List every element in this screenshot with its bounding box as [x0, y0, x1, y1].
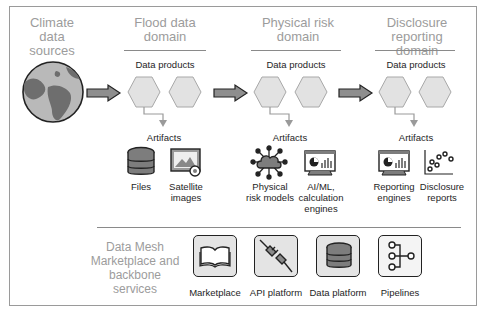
- service-tile-data-platform[interactable]: [316, 235, 360, 277]
- database-icon: [127, 147, 155, 177]
- data-products-label: Data products: [120, 59, 210, 70]
- backbone-title: Data Mesh Marketplace and backbone servi…: [88, 240, 182, 296]
- database-icon: [326, 242, 352, 270]
- divider: [251, 50, 341, 51]
- scatter-plot-icon: [424, 150, 454, 176]
- data-product-hexagon-icon[interactable]: [253, 76, 287, 108]
- connector-arrow-icon: [143, 107, 167, 129]
- service-tile-marketplace[interactable]: [193, 235, 237, 277]
- cloud-network-icon: [252, 146, 286, 178]
- artifact-label: AI/ML, calculation engines: [298, 181, 344, 214]
- artifacts-label: Artifacts: [382, 132, 450, 143]
- dashboard-monitor-icon: [304, 150, 336, 176]
- service-label: Pipelines: [372, 287, 428, 298]
- flow-arrow-icon: [86, 84, 122, 102]
- domain-title-physical-risk: Physical risk domain: [250, 16, 346, 44]
- service-tile-pipelines[interactable]: [378, 235, 422, 277]
- divider: [375, 50, 455, 51]
- dashboard-monitor-icon: [378, 150, 410, 176]
- service-label: Data platform: [306, 287, 370, 298]
- data-product-hexagon-icon[interactable]: [127, 76, 161, 108]
- connector-arrow-icon: [269, 107, 293, 129]
- open-book-icon: [199, 244, 231, 268]
- service-tile-api-platform[interactable]: [254, 235, 298, 277]
- service-label: API platform: [246, 287, 306, 298]
- satellite-image-icon: [170, 148, 202, 178]
- data-products-label: Data products: [368, 59, 464, 70]
- domain-title-flood: Flood data domain: [122, 16, 208, 44]
- domain-title-disclosure-reporting: Disclosure reporting domain: [370, 16, 464, 58]
- source-title: Climate data sources: [18, 16, 86, 58]
- artifact-label: Satellite images: [164, 181, 208, 203]
- artifact-label: Files: [124, 181, 158, 192]
- artifact-label: Reporting engines: [372, 181, 416, 203]
- flow-arrow-icon: [338, 84, 374, 102]
- artifacts-label: Artifacts: [130, 132, 198, 143]
- artifact-label: Disclosure reports: [419, 181, 465, 203]
- data-product-hexagon-icon[interactable]: [418, 76, 452, 108]
- service-label: Marketplace: [186, 287, 244, 298]
- data-product-hexagon-icon[interactable]: [378, 76, 412, 108]
- flow-arrow-icon: [213, 84, 249, 102]
- divider: [97, 227, 461, 228]
- pipeline-icon: [388, 241, 416, 271]
- artifact-label: Physical risk models: [244, 181, 296, 203]
- divider: [124, 50, 206, 51]
- globe-icon: [22, 61, 84, 123]
- data-product-hexagon-icon[interactable]: [294, 76, 328, 108]
- connector-arrow-icon: [394, 107, 418, 129]
- data-products-label: Data products: [248, 59, 344, 70]
- plug-connector-icon: [259, 239, 293, 273]
- artifacts-label: Artifacts: [256, 132, 324, 143]
- data-product-hexagon-icon[interactable]: [168, 76, 202, 108]
